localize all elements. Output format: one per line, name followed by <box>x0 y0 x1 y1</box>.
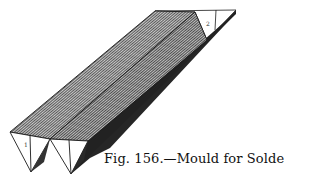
figure-caption: Fig. 156.—Mould for Solder. <box>104 151 284 166</box>
end-label-2: 2 <box>206 20 210 27</box>
end-label-1: 1 <box>24 141 28 148</box>
